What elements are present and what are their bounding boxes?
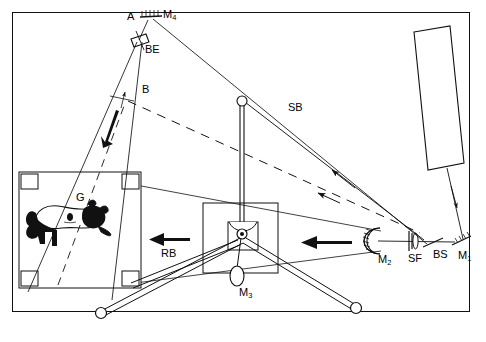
point-b-marker (110, 92, 134, 108)
expanding-beam-arrow (301, 236, 352, 249)
label-signal-beam: SB (288, 102, 303, 113)
label-mirror-m2: M2 (378, 254, 391, 265)
label-mirror-m3: M3 (239, 287, 252, 298)
diagram-canvas: A M4 BE B SB G RB M2 SF BS M1 M3 (0, 0, 486, 342)
point-b-arrow (101, 110, 119, 148)
label-point-b: B (142, 84, 149, 95)
label-spatial-filter: SF (408, 253, 422, 264)
laser-source (414, 26, 464, 170)
mirror-m4 (140, 10, 162, 17)
label-beam-splitter: BS (433, 249, 448, 260)
mirror-m2 (363, 228, 380, 254)
label-beam-expander: BE (145, 44, 160, 55)
label-mirror-m4: M4 (163, 9, 176, 20)
label-aperture-a: A (127, 11, 134, 22)
reference-beam-arrow (149, 233, 190, 246)
label-hologram-plate-g: G (76, 192, 85, 203)
label-mirror-m1: M1 (458, 250, 471, 261)
laser-beam-arrowhead (451, 186, 457, 208)
label-reference-beam: RB (161, 248, 176, 259)
laser-output-beam (447, 168, 463, 239)
beam-splitter-bs (423, 238, 443, 247)
